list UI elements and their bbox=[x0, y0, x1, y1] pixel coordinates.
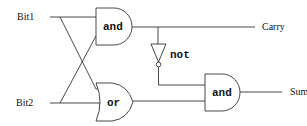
output-label-carry: Carry bbox=[262, 21, 285, 32]
and-gate-sum-label: and bbox=[212, 87, 232, 99]
not-gate-label: not bbox=[170, 49, 190, 61]
not-gate bbox=[151, 44, 166, 62]
or-gate-label: or bbox=[107, 97, 120, 109]
input-label-bit2: Bit2 bbox=[16, 97, 33, 108]
wire-bit1-or bbox=[60, 17, 101, 89]
not-gate-bubble bbox=[156, 62, 161, 67]
and-gate-carry-label: and bbox=[103, 21, 123, 33]
output-label-sum: Sum bbox=[290, 86, 307, 97]
wire-not-and2 bbox=[159, 67, 206, 85]
input-label-bit1: Bit1 bbox=[17, 11, 34, 22]
wire-bit2-and1 bbox=[60, 36, 96, 103]
half-adder-diagram: Bit1 Bit2 and Carry not or and Sum bbox=[0, 0, 307, 126]
